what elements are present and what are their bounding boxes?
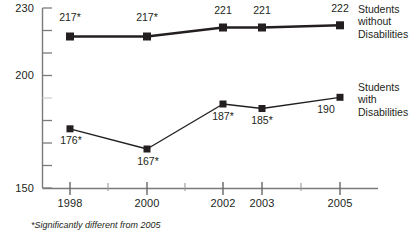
data-label-without-2005: 222: [323, 2, 357, 14]
series-line-students-without-disabilities: [70, 25, 340, 36]
x-tick-label-1998: 1998: [50, 197, 90, 209]
x-tick-label-2002: 2002: [203, 197, 243, 209]
y-axis-ticks: [43, 8, 53, 188]
y-tick-label-200: 200: [4, 69, 34, 81]
data-label-with-2003: 185*: [243, 114, 281, 126]
x-axis-minor-ticks: [108, 183, 301, 191]
footnote-significance: *Significantly different from 2005: [31, 220, 161, 230]
data-label-without-2002: 221: [206, 4, 240, 16]
x-tick-label-2000: 2000: [127, 197, 167, 209]
data-label-without-1998: 217*: [52, 11, 88, 23]
legend-with-line2: with: [358, 93, 408, 105]
legend-with-line1: Students: [358, 81, 408, 93]
series-line-students-with-disabilities: [70, 97, 340, 149]
data-label-without-2000: 217*: [129, 11, 165, 23]
data-label-with-2005: 190: [311, 103, 341, 115]
data-label-without-2003: 221: [245, 4, 279, 16]
legend-without-line1: Students: [358, 3, 408, 15]
legend-without-line2: without: [358, 15, 408, 27]
legend-with-line3: Disabilities: [358, 106, 408, 118]
y-tick-label-150: 150: [4, 182, 34, 194]
legend-students-without-disabilities: Students without Disabilities: [358, 3, 408, 40]
legend-students-with-disabilities: Students with Disabilities: [358, 81, 408, 118]
data-label-with-2000: 167*: [129, 155, 167, 167]
data-label-with-2002: 187*: [204, 110, 242, 122]
x-tick-label-2005: 2005: [320, 197, 360, 209]
x-tick-label-2003: 2003: [242, 197, 282, 209]
chart-container: 230 200 150 1998 2000 2002 2003 2005 217…: [0, 0, 411, 235]
y-tick-label-230: 230: [4, 2, 34, 14]
data-label-with-1998: 176*: [52, 134, 90, 146]
legend-without-line3: Disabilities: [358, 28, 408, 40]
